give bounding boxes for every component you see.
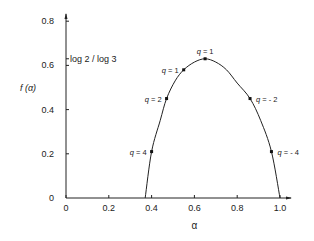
x-axis-label: α (192, 220, 198, 231)
f-alpha-curve (145, 59, 280, 198)
x-tick-label: 0.4 (145, 203, 158, 213)
point-label: q = 4 (130, 148, 147, 157)
y-axis-arrow-icon (65, 13, 68, 19)
x-tick-label: 0.8 (231, 203, 244, 213)
data-point-marker (270, 150, 273, 153)
point-label: q = 1 (197, 47, 214, 56)
data-point-marker (249, 97, 252, 100)
y-tick-label: 0.6 (41, 60, 54, 70)
y-tick-label: 0.4 (41, 105, 54, 115)
x-tick-label: 0.2 (103, 203, 116, 213)
x-axis-arrow-icon (286, 197, 292, 200)
chart: 00.20.40.60.81.000.20.40.60.8 q = 4q = 2… (0, 0, 314, 241)
y-tick-label: 0.8 (41, 16, 54, 26)
x-tick-label: 0.6 (188, 203, 201, 213)
data-points: q = 4q = 2q = 1q = 1q = - 2q = - 4 (130, 47, 299, 157)
ticks: 00.20.40.60.81.000.20.40.60.8 (41, 16, 286, 213)
data-point-marker (182, 68, 185, 71)
y-axis-label: f (α) (20, 83, 36, 93)
log2-log3-annotation: log 2 / log 3 (70, 54, 117, 64)
y-tick-label: 0 (49, 193, 54, 203)
point-label: q = - 4 (277, 148, 298, 157)
axes (65, 13, 293, 200)
x-tick-label: 1.0 (274, 203, 287, 213)
data-point-marker (150, 150, 153, 153)
x-tick-label: 0 (63, 203, 68, 213)
data-point-marker (204, 57, 207, 60)
y-tick-label: 0.2 (41, 149, 54, 159)
point-label: q = - 2 (256, 95, 277, 104)
data-point-marker (165, 97, 168, 100)
point-label: q = 2 (145, 95, 162, 104)
point-label: q = 1 (162, 66, 179, 75)
